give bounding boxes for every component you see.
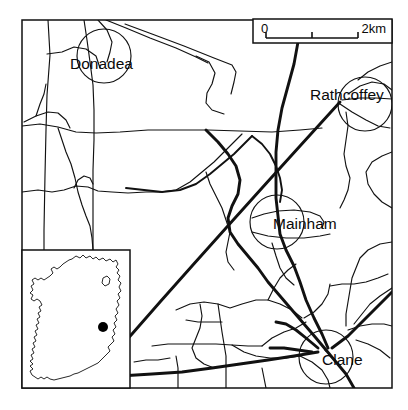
scale-bar-min-label: 0 xyxy=(261,21,268,36)
locator-map-figure: Donadea Rathcoffey Mainham Clane 0 2km xyxy=(0,0,408,410)
place-label-donadea: Donadea xyxy=(70,55,133,72)
place-label-mainham: Mainham xyxy=(273,215,337,232)
place-label-rathcoffey: Rathcoffey xyxy=(310,86,384,103)
scale-bar-max-label: 2km xyxy=(361,21,386,36)
scale-bar: 0 2km xyxy=(253,19,392,43)
map-canvas: Donadea Rathcoffey Mainham Clane 0 2km xyxy=(0,0,408,410)
lough-neagh xyxy=(102,276,110,286)
place-label-clane: Clane xyxy=(322,351,363,368)
inset-map xyxy=(22,250,130,388)
study-area-marker-dot xyxy=(98,322,108,332)
